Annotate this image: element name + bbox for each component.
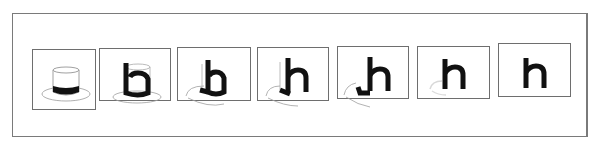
hat-h-morph-icon — [258, 48, 330, 110]
top-hat-icon — [33, 50, 97, 111]
frame-3-morph: h — [177, 47, 251, 101]
frame-7-letter-h: h — [498, 43, 571, 97]
hat-h-morph-icon — [178, 48, 252, 110]
hat-h-morph-icon — [418, 47, 491, 100]
hat-h-morph-icon — [100, 49, 172, 111]
frame-4-morph: h — [257, 47, 329, 101]
frame-2-morph: h — [99, 48, 171, 101]
letter-h-icon — [499, 44, 572, 98]
frame-5-morph: h — [337, 46, 409, 99]
hat-h-morph-icon — [338, 47, 410, 109]
frame-6-morph: h — [417, 46, 490, 99]
frame-1-top-hat — [32, 49, 96, 110]
